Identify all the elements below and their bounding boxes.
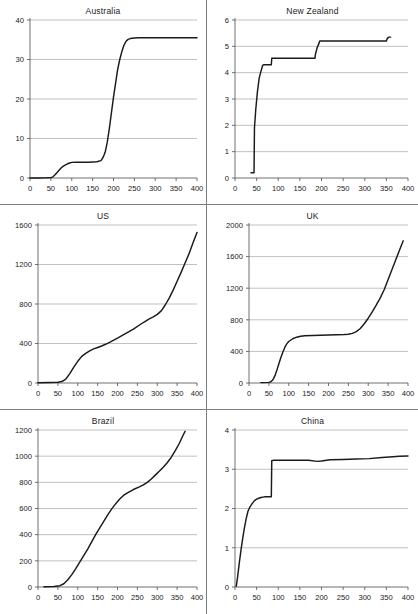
chart-panel-uk: UK04008001200160020000501001502002503003… (207, 205, 418, 410)
plot-area: 0400800120016002000050100150200250300350… (207, 205, 418, 409)
x-tick-label: 100 (71, 593, 84, 602)
y-tick-label: 2000 (226, 221, 243, 230)
x-tick-label: 300 (151, 593, 164, 602)
chart-panel-new-zealand: New Zealand01234560501001502002503003504… (207, 0, 418, 205)
x-tick-label: 400 (191, 593, 204, 602)
x-tick-label: 300 (362, 389, 375, 398)
y-tick-label: 10 (16, 134, 24, 143)
x-tick-label: 400 (191, 389, 204, 398)
x-tick-label: 50 (252, 593, 260, 602)
x-tick-label: 50 (265, 389, 273, 398)
x-tick-label: 100 (282, 389, 295, 398)
y-tick-label: 600 (19, 504, 32, 513)
y-tick-label: 2 (225, 121, 229, 130)
y-tick-label: 0 (239, 379, 243, 388)
x-tick-label: 0 (233, 593, 237, 602)
plot-area: 0200400600800100012000501001502002503003… (0, 410, 206, 614)
x-tick-label: 0 (247, 389, 251, 398)
plot-svg: 01234050100150200250300350400 (207, 410, 418, 614)
x-tick-label: 300 (151, 389, 164, 398)
x-tick-label: 400 (402, 389, 415, 398)
chart-panel-us: US04008001200160005010015020025030035040… (0, 205, 207, 410)
y-tick-label: 400 (19, 530, 32, 539)
x-tick-label: 100 (272, 593, 285, 602)
x-tick-label: 350 (380, 184, 393, 193)
x-tick-label: 150 (91, 389, 104, 398)
y-tick-label: 1200 (15, 260, 32, 269)
plot-area: 010203040050100150200250300350400 (0, 0, 206, 204)
y-tick-label: 5 (225, 42, 229, 51)
x-tick-label: 350 (171, 389, 184, 398)
x-tick-label: 150 (294, 184, 307, 193)
plot-svg: 010203040050100150200250300350400 (0, 0, 207, 205)
y-tick-label: 6 (225, 16, 229, 25)
x-tick-label: 250 (131, 593, 144, 602)
x-tick-label: 100 (71, 389, 84, 398)
x-tick-label: 350 (382, 389, 395, 398)
x-tick-label: 0 (36, 593, 40, 602)
x-tick-label: 300 (358, 593, 371, 602)
y-tick-label: 3 (225, 95, 229, 104)
y-tick-label: 1600 (226, 252, 243, 261)
x-tick-label: 250 (128, 184, 141, 193)
x-tick-label: 350 (170, 184, 183, 193)
y-tick-label: 1 (225, 544, 229, 553)
x-tick-label: 100 (272, 184, 285, 193)
x-tick-label: 0 (36, 389, 40, 398)
y-tick-label: 800 (230, 316, 243, 325)
y-tick-label: 0 (225, 174, 229, 183)
x-tick-label: 100 (65, 184, 78, 193)
y-tick-label: 800 (19, 478, 32, 487)
data-series-line (251, 37, 391, 173)
x-tick-label: 200 (315, 593, 328, 602)
y-tick-label: 0 (28, 379, 32, 388)
x-tick-label: 50 (54, 389, 62, 398)
y-tick-label: 4 (225, 426, 229, 435)
plot-svg: 040080012001600050100150200250300350400 (0, 205, 207, 410)
x-tick-label: 150 (86, 184, 99, 193)
plot-area: 01234050100150200250300350400 (207, 410, 418, 614)
chart-panel-brazil: Brazil0200400600800100012000501001502002… (0, 410, 207, 614)
y-tick-label: 400 (19, 339, 32, 348)
x-tick-label: 300 (149, 184, 162, 193)
plot-svg: 0123456050100150200250300350400 (207, 0, 418, 205)
data-series-line (236, 456, 408, 586)
x-tick-label: 250 (337, 184, 350, 193)
x-tick-label: 0 (233, 184, 237, 193)
x-tick-label: 350 (171, 593, 184, 602)
x-tick-label: 200 (315, 184, 328, 193)
y-tick-label: 0 (20, 174, 24, 183)
data-series-line (38, 232, 197, 382)
y-tick-label: 400 (230, 347, 243, 356)
x-tick-label: 200 (111, 389, 124, 398)
y-tick-label: 0 (225, 583, 229, 592)
small-multiples-figure: Australia0102030400501001502002503003504… (0, 0, 418, 614)
x-tick-label: 0 (28, 184, 32, 193)
y-tick-label: 0 (28, 583, 32, 592)
plot-area: 0123456050100150200250300350400 (207, 0, 418, 204)
x-tick-label: 50 (47, 184, 55, 193)
x-tick-label: 250 (342, 389, 355, 398)
y-tick-label: 1200 (226, 284, 243, 293)
x-tick-label: 50 (252, 184, 260, 193)
x-tick-label: 250 (131, 389, 144, 398)
x-tick-label: 200 (322, 389, 335, 398)
x-tick-label: 400 (402, 593, 415, 602)
plot-area: 040080012001600050100150200250300350400 (0, 205, 206, 409)
y-tick-label: 200 (19, 557, 32, 566)
data-series-line (44, 431, 185, 586)
chart-panel-china: China01234050100150200250300350400 (207, 410, 418, 614)
y-tick-label: 2 (225, 504, 229, 513)
x-tick-label: 250 (337, 593, 350, 602)
plot-svg: 0400800120016002000050100150200250300350… (207, 205, 418, 410)
x-tick-label: 150 (294, 593, 307, 602)
y-tick-label: 1200 (15, 426, 32, 435)
chart-panel-australia: Australia0102030400501001502002503003504… (0, 0, 207, 205)
y-tick-label: 4 (225, 68, 229, 77)
x-tick-label: 200 (107, 184, 120, 193)
y-tick-label: 20 (16, 95, 24, 104)
y-tick-label: 800 (19, 300, 32, 309)
y-tick-label: 40 (16, 16, 24, 25)
x-tick-label: 400 (402, 184, 415, 193)
x-tick-label: 150 (91, 593, 104, 602)
